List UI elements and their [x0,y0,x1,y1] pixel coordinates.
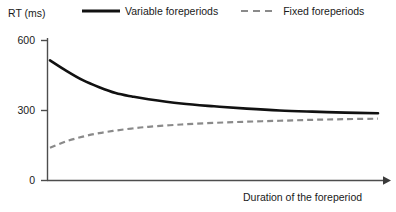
plot-area [0,0,396,212]
series-line-variable-foreperiods [50,60,378,113]
x-axis-title: Duration of the foreperiod [243,192,362,203]
series-line-fixed-foreperiods [50,119,378,148]
chart-figure: Variable foreperiods Fixed foreperiods R… [0,0,396,212]
x-axis-arrow-icon [383,176,391,185]
y-axis-ticks [41,41,48,181]
